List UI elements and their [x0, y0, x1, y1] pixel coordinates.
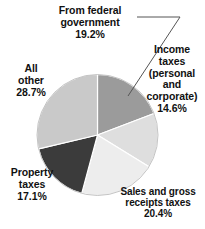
slice-label-property-taxes: Property taxes 17.1%	[1, 167, 63, 202]
slice-label-line: taxes	[142, 56, 202, 68]
slice-value: 19.2%	[44, 29, 136, 41]
slice-label-line: Sales and gross	[112, 186, 204, 197]
pie-chart-figure: From federal government 19.2% Income tax…	[0, 0, 205, 229]
slice-label-line: taxes	[1, 179, 63, 191]
slice-label-line: receipts taxes	[112, 197, 204, 208]
slice-label-line: Property	[1, 167, 63, 179]
slice-value: 28.7%	[2, 87, 60, 99]
slice-label-line: government	[44, 17, 136, 29]
slice-label-income-taxes: Income taxes (personal and corporate) 14…	[142, 44, 202, 115]
slice-label-line: corporate)	[142, 91, 202, 103]
slice-label-line: other	[2, 75, 60, 87]
slice-label-from-federal-government: From federal government 19.2%	[44, 5, 136, 40]
slice-label-line: From federal	[44, 5, 136, 17]
slice-value: 17.1%	[1, 191, 63, 203]
slice-value: 14.6%	[142, 103, 202, 115]
slice-label-sales-and-gross-receipts-taxes: Sales and gross receipts taxes 20.4%	[112, 186, 204, 220]
slice-label-line: Income	[142, 44, 202, 56]
slice-value: 20.4%	[112, 208, 204, 219]
slice-label-line: All	[2, 63, 60, 75]
slice-label-all-other: All other 28.7%	[2, 63, 60, 98]
